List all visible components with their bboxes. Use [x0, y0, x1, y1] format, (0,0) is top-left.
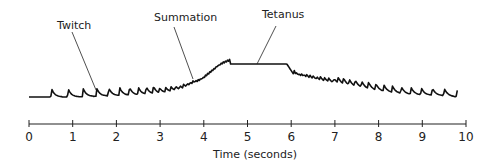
- x-tick-label: 1: [69, 130, 77, 144]
- summation-leader-line: [174, 27, 193, 79]
- tetanus-leader-line: [257, 26, 276, 64]
- x-tick-label: 6: [287, 130, 295, 144]
- x-tick-label: 5: [244, 130, 252, 144]
- x-tick-label: 4: [200, 130, 208, 144]
- tetanus-label: Tetanus: [261, 8, 305, 21]
- twitch-leader-line: [72, 32, 96, 90]
- x-tick-label: 3: [156, 130, 164, 144]
- x-axis-title: Time (seconds): [212, 148, 297, 161]
- twitch-summation-tetanus-chart: Twitch Summation Tetanus 012345678910 Ti…: [0, 0, 490, 167]
- summation-label: Summation: [154, 11, 217, 24]
- x-tick-label: 0: [25, 130, 33, 144]
- x-tick-label: 8: [375, 130, 383, 144]
- x-tick-label: 9: [418, 130, 426, 144]
- force-trace-line: [29, 59, 457, 97]
- x-tick-label: 7: [331, 130, 339, 144]
- x-tick-label: 10: [458, 130, 473, 144]
- twitch-label: Twitch: [56, 19, 91, 32]
- x-tick-label: 2: [113, 130, 121, 144]
